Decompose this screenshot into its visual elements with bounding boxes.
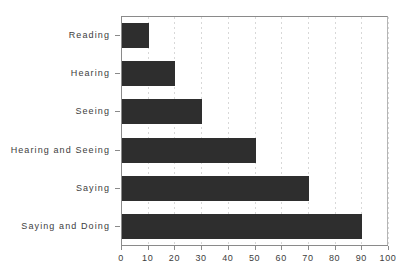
y-axis-category-label: Seeing — [0, 106, 110, 116]
x-axis-tick-label: 0 — [106, 253, 136, 264]
y-axis-category-label: Saying and Doing — [0, 221, 110, 231]
x-axis-tick — [148, 246, 149, 250]
gridline — [388, 17, 389, 245]
x-axis-tick-label: 80 — [320, 253, 350, 264]
x-axis-tick-label: 40 — [213, 253, 243, 264]
bar[interactable] — [122, 61, 175, 86]
y-axis-category-label: Saying — [0, 183, 110, 193]
bar-row — [122, 208, 387, 246]
y-axis-category-label: Hearing and Seeing — [0, 145, 110, 155]
bar[interactable] — [122, 214, 362, 239]
bar[interactable] — [122, 176, 309, 201]
y-axis-tick — [115, 150, 120, 151]
bar-row — [122, 170, 387, 208]
y-axis-tick — [115, 226, 120, 227]
x-axis-tick-label: 60 — [266, 253, 296, 264]
y-axis-tick — [115, 188, 120, 189]
x-axis-tick-label: 20 — [159, 253, 189, 264]
bar[interactable] — [122, 138, 256, 163]
x-axis-tick — [201, 246, 202, 250]
bar-row — [122, 93, 387, 131]
bar[interactable] — [122, 99, 202, 124]
bar-row — [122, 55, 387, 93]
x-axis-tick — [228, 246, 229, 250]
y-axis-tick — [115, 35, 120, 36]
x-axis-tick — [335, 246, 336, 250]
y-axis-tick — [115, 111, 120, 112]
x-axis-tick — [388, 246, 389, 250]
bar-row — [122, 17, 387, 55]
x-axis-tick — [121, 246, 122, 250]
x-axis-tick — [361, 246, 362, 250]
bar[interactable] — [122, 23, 149, 48]
x-axis-tick — [281, 246, 282, 250]
x-axis-tick-label: 90 — [346, 253, 376, 264]
x-axis-tick-label: 30 — [186, 253, 216, 264]
x-axis-tick — [174, 246, 175, 250]
plot-area — [121, 16, 388, 245]
x-axis-tick-label: 70 — [293, 253, 323, 264]
y-axis-category-label: Reading — [0, 30, 110, 40]
x-axis-tick — [308, 246, 309, 250]
x-axis-tick-label: 100 — [373, 253, 403, 264]
x-axis-tick-label: 10 — [133, 253, 163, 264]
bar-row — [122, 132, 387, 170]
x-axis-tick-label: 50 — [240, 253, 270, 264]
y-axis-category-label: Hearing — [0, 68, 110, 78]
x-axis-tick — [255, 246, 256, 250]
bar-chart: ReadingHearingSeeingHearing and SeeingSa… — [0, 0, 414, 277]
y-axis-tick — [115, 73, 120, 74]
